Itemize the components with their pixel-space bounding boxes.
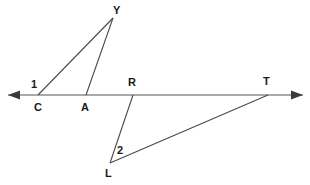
geometry-diagram: C A R T Y L 1 2 [0,0,310,185]
segment-Y-A [86,18,113,95]
point-label-A: A [81,102,89,113]
segment-L-T [110,95,268,163]
point-label-C: C [34,102,42,113]
point-label-Y: Y [113,5,120,16]
point-label-T: T [263,76,270,87]
angle-label-2: 2 [117,145,123,156]
point-label-R: R [128,77,136,88]
point-label-L: L [105,168,112,179]
segment-Y-C [38,18,113,95]
right-arrowhead-icon [291,91,303,100]
diagram-canvas [0,0,310,185]
left-arrowhead-icon [8,91,20,100]
angle-label-1: 1 [31,79,37,90]
